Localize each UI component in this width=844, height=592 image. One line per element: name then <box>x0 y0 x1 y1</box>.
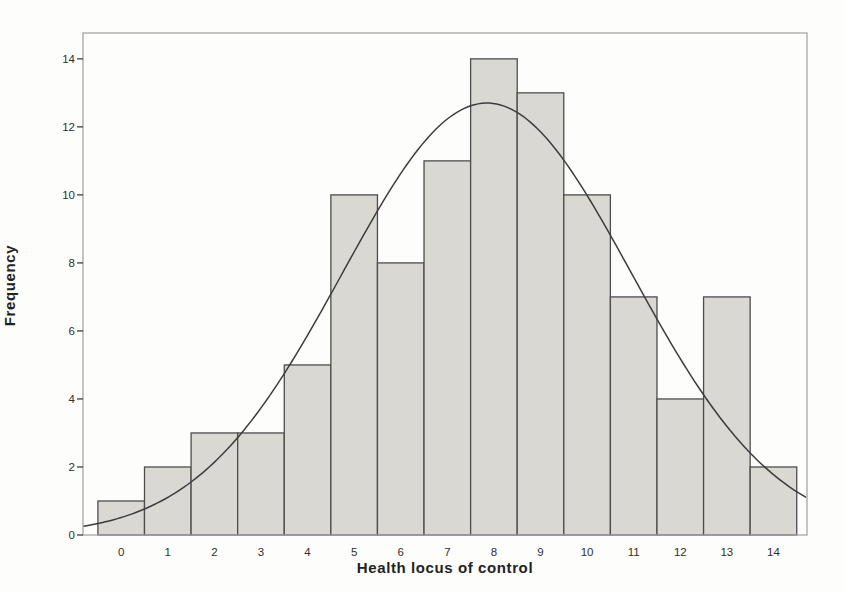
plot-area: 0246810121401234567891011121314 <box>0 0 844 592</box>
x-tick-label: 14 <box>767 546 780 558</box>
histogram-bar <box>284 365 331 535</box>
x-tick-label: 9 <box>537 546 543 558</box>
y-tick-label: 2 <box>69 461 75 473</box>
x-tick-label: 11 <box>628 546 640 558</box>
x-tick-label: 13 <box>720 546 733 558</box>
histogram-bar <box>331 195 378 535</box>
histogram-bar <box>610 297 657 535</box>
histogram-bar <box>377 263 424 535</box>
x-tick-label: 5 <box>351 546 357 558</box>
histogram-bar <box>145 467 192 535</box>
y-tick-label: 6 <box>69 325 75 337</box>
y-axis-title: Frequency <box>1 191 18 381</box>
histogram-bar <box>564 195 611 535</box>
x-tick-label: 6 <box>398 546 404 558</box>
y-tick-label: 8 <box>69 257 75 269</box>
x-tick-label: 2 <box>211 546 217 558</box>
histogram-bar <box>704 297 751 535</box>
y-tick-label: 4 <box>69 393 76 405</box>
histogram-bar <box>517 93 564 535</box>
y-tick-label: 12 <box>62 121 75 133</box>
x-tick-label: 1 <box>165 546 171 558</box>
y-tick-label: 14 <box>62 53 75 65</box>
x-tick-label: 12 <box>674 546 687 558</box>
x-tick-label: 10 <box>581 546 594 558</box>
y-tick-label: 10 <box>62 189 75 201</box>
histogram-bar <box>471 59 518 535</box>
x-tick-label: 0 <box>118 546 124 558</box>
x-tick-label: 3 <box>258 546 264 558</box>
histogram-chart: 0246810121401234567891011121314 Frequenc… <box>0 0 844 592</box>
histogram-bar <box>238 433 285 535</box>
y-tick-label: 0 <box>69 529 75 541</box>
x-tick-label: 7 <box>444 546 450 558</box>
histogram-bar <box>424 161 471 535</box>
x-axis-title: Health locus of control <box>83 559 807 576</box>
histogram-bar <box>657 399 704 535</box>
scanned-chart-page: 0246810121401234567891011121314 Frequenc… <box>0 0 844 592</box>
x-tick-label: 4 <box>304 546 311 558</box>
x-tick-label: 8 <box>491 546 497 558</box>
histogram-bar <box>750 467 797 535</box>
histogram-bar <box>191 433 238 535</box>
